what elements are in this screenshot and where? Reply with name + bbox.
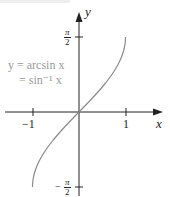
tick-label-neg-pi-half: π 2: [64, 178, 71, 197]
tick-label-neg1: −1: [22, 117, 35, 132]
arcsin-plot: [0, 0, 170, 197]
y-axis-arrow-icon: [76, 12, 83, 22]
x-axis-label: x: [156, 116, 162, 132]
denominator: 2: [64, 188, 71, 197]
x-axis-arrow-icon: [153, 109, 163, 116]
equation-line-1: y = arcsin x: [8, 58, 64, 72]
equation-line-2: = sin⁻¹ x: [19, 73, 62, 87]
denominator: 2: [64, 38, 71, 47]
minus-sign: −: [55, 181, 61, 192]
tick-label-pos1: 1: [123, 117, 129, 132]
y-axis-label: y: [85, 4, 91, 20]
tick-label-pi-half: π 2: [64, 28, 71, 47]
